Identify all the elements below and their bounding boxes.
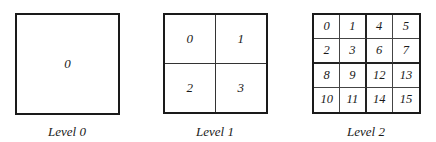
cell: 0 [17, 15, 118, 113]
cell: 3 [216, 64, 267, 113]
cell: 10 [314, 88, 340, 112]
level-2-grid: 0 1 4 5 2 3 6 7 8 9 12 13 10 11 14 15 [312, 13, 421, 114]
cell: 1 [340, 15, 366, 39]
cell: 11 [340, 88, 366, 112]
cell: 1 [216, 15, 267, 64]
cell: 14 [367, 88, 393, 112]
cell: 9 [340, 64, 366, 88]
cell: 6 [367, 39, 393, 63]
cell: 8 [314, 64, 340, 88]
cell: 13 [393, 64, 419, 88]
cell: 12 [367, 64, 393, 88]
cell: 15 [393, 88, 419, 112]
cell: 5 [393, 15, 419, 39]
cell: 0 [165, 15, 216, 64]
cell: 7 [393, 39, 419, 63]
level-1-label: Level 1 [155, 124, 275, 140]
cell: 3 [340, 39, 366, 63]
cell: 4 [367, 15, 393, 39]
cell: 0 [314, 15, 340, 39]
cell: 2 [165, 64, 216, 113]
level-1-grid: 0 1 2 3 [163, 13, 268, 114]
level-2-label: Level 2 [306, 124, 426, 140]
cell: 2 [314, 39, 340, 63]
level-0-label: Level 0 [7, 124, 127, 140]
level-0-grid: 0 [15, 13, 120, 115]
